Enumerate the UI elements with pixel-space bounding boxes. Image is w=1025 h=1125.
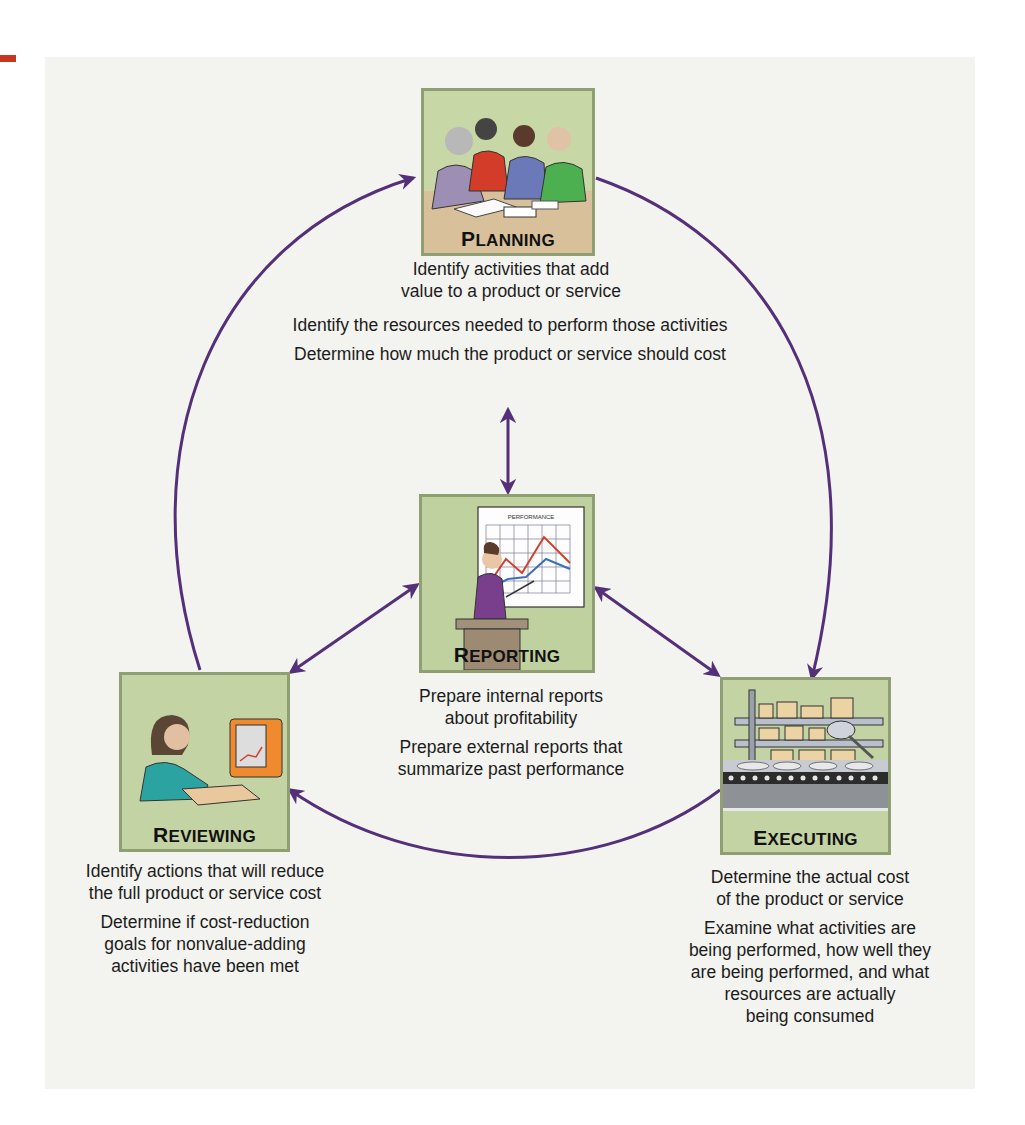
arc-planning-to-executing [596, 178, 831, 678]
svg-text:PERFORMANCE: PERFORMANCE [508, 514, 555, 520]
stage-reviewing: REVIEWING [119, 672, 290, 852]
stage-executing: EXECUTING [720, 677, 891, 855]
link-reporting-reviewing [291, 585, 417, 672]
arc-reviewing-to-planning [175, 178, 413, 670]
planning-description-2: Identify the resources needed to perform… [220, 314, 800, 372]
stage-reporting: PERFORMANCE REPORTING [419, 494, 595, 673]
executing-description: Determine the actual costof the product … [655, 866, 965, 1034]
stage-label: EXECUTING [723, 826, 888, 850]
stage-label: REPORTING [422, 643, 592, 667]
link-reporting-executing [596, 588, 718, 675]
reporting-description: Prepare internal reportsabout profitabil… [356, 685, 666, 787]
stage-label: PLANNING [424, 227, 592, 251]
planning-description: Identify activities that addvalue to a p… [376, 258, 646, 309]
stage-planning: PLANNING [421, 88, 595, 256]
reviewing-description: Identify actions that will reducethe ful… [55, 860, 355, 984]
arc-executing-to-reviewing [290, 790, 720, 858]
stage-label: REVIEWING [122, 823, 287, 847]
